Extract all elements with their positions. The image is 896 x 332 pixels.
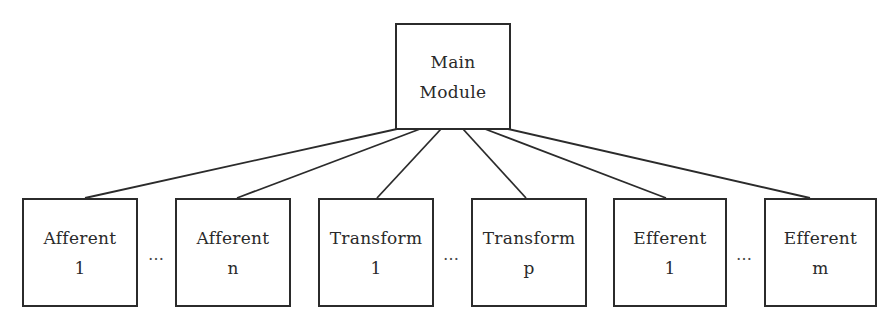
afferent-n-index: n [227, 253, 238, 283]
transform-1-box: Transform 1 [318, 198, 434, 307]
edge-main-afferent-1 [85, 129, 397, 198]
transform-p-index: p [523, 253, 534, 283]
ellipsis-efferent: … [736, 245, 754, 264]
edge-main-efferent-m [508, 129, 810, 198]
transform-1-index: 1 [370, 253, 381, 283]
edge-main-transform-p [463, 129, 526, 198]
efferent-m-index: m [812, 253, 828, 283]
efferent-m-label: Efferent [784, 223, 857, 253]
efferent-1-index: 1 [664, 253, 675, 283]
afferent-1-box: Afferent 1 [22, 198, 138, 307]
afferent-n-box: Afferent n [175, 198, 291, 307]
edge-main-afferent-n [237, 129, 420, 198]
efferent-m-box: Efferent m [764, 198, 877, 307]
transform-p-label: Transform [483, 223, 576, 253]
afferent-1-index: 1 [74, 253, 85, 283]
efferent-1-box: Efferent 1 [613, 198, 727, 307]
main-module-box: Main Module [395, 23, 511, 130]
afferent-n-label: Afferent [197, 223, 270, 253]
ellipsis-transform: … [443, 245, 461, 264]
afferent-1-label: Afferent [44, 223, 117, 253]
efferent-1-label: Efferent [633, 223, 706, 253]
main-module-label-line2: Module [420, 77, 487, 107]
ellipsis-afferent: … [148, 245, 166, 264]
edge-main-efferent-1 [485, 129, 666, 198]
main-module-label-line1: Main [430, 47, 475, 77]
transform-1-label: Transform [330, 223, 423, 253]
transform-p-box: Transform p [471, 198, 587, 307]
edge-main-transform-1 [377, 129, 441, 198]
